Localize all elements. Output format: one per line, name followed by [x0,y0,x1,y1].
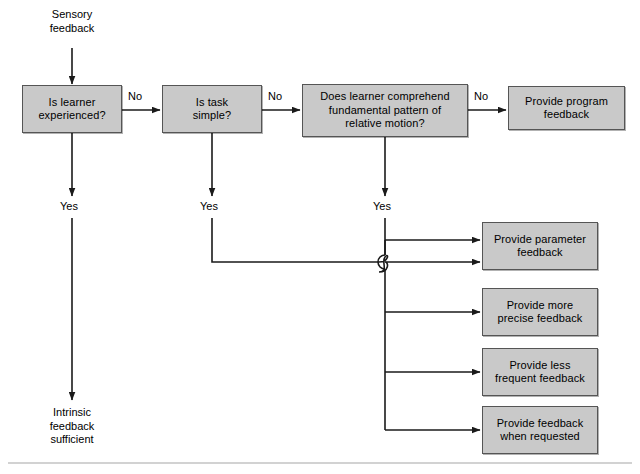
node-parameter-feedback-label: Provide parameterfeedback [491,233,589,260]
node-program-feedback[interactable]: Provide programfeedback [508,86,625,130]
node-learner-experienced[interactable]: Is learnerexperienced? [22,85,122,133]
node-comprehend-pattern[interactable]: Does learner comprehendfundamental patte… [302,84,468,137]
edge-label-yes-3: Yes [373,200,391,213]
node-comprehend-pattern-label: Does learner comprehendfundamental patte… [317,90,452,131]
node-more-precise-feedback-label: Provide moreprecise feedback [495,299,586,326]
node-feedback-when-requested[interactable]: Provide feedbackwhen requested [482,406,598,454]
flowchart-canvas: Is task simple? --> Does learner compreh… [0,0,640,474]
node-parameter-feedback[interactable]: Provide parameterfeedback [482,222,598,270]
edge-label-yes-2: Yes [200,200,218,213]
node-task-simple[interactable]: Is tasksimple? [162,85,262,133]
node-learner-experienced-label: Is learnerexperienced? [35,96,108,123]
entry-label: Sensoryfeedback [32,8,112,35]
edge-label-yes-1: Yes [60,200,78,213]
node-less-frequent-feedback-label: Provide lessfrequent feedback [492,359,588,386]
node-task-simple-label: Is tasksimple? [190,96,235,123]
connector-yes2-to-parameter-feedback [212,218,480,272]
node-feedback-when-requested-label: Provide feedbackwhen requested [494,417,587,444]
node-less-frequent-feedback[interactable]: Provide lessfrequent feedback [482,348,598,396]
edge-label-no-1: No [128,90,142,103]
edge-label-no-2: No [268,90,282,103]
node-more-precise-feedback[interactable]: Provide moreprecise feedback [482,288,598,336]
node-program-feedback-label: Provide programfeedback [522,95,611,122]
footer-divider [8,462,632,464]
edge-label-no-3: No [474,90,488,103]
terminal-label: Intrinsicfeedbacksufficient [32,406,112,447]
